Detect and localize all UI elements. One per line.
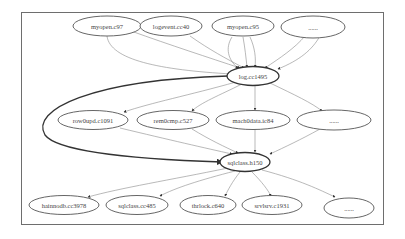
edge-n3b-center1 — [243, 37, 247, 67]
edges-bottom — [88, 168, 335, 197]
edge-n3c-center1 — [250, 37, 255, 67]
node-label: sqlclass.cc485 — [118, 202, 155, 209]
node-label: row0upd.c1091 — [73, 117, 114, 124]
node-label: thrlock.c640 — [192, 202, 225, 209]
node-row0upd-c1091[interactable]: row0upd.c1091 — [58, 111, 128, 130]
edge-center1-m4 — [270, 83, 322, 111]
node-log-cc1495[interactable]: log.cc1495 — [227, 67, 279, 86]
edges-top — [107, 31, 320, 74]
node-ellipsis-middle[interactable]: ...... — [297, 110, 371, 130]
edge-center2-b2 — [160, 171, 235, 196]
node-ellipsis-bottom[interactable]: ...... — [324, 198, 374, 218]
edge-n2-center1 — [190, 36, 244, 68]
edge-center2-b3 — [225, 172, 240, 196]
call-graph: myopen.c97 logevent.cc40 myopen.c95 ....… — [0, 0, 405, 239]
node-label: logevent.cc40 — [153, 23, 189, 30]
edge-n4a-center1 — [265, 36, 305, 68]
edge-center1-m2 — [192, 84, 242, 111]
edges-middle — [124, 82, 322, 112]
node-thrlock-c640[interactable]: thrlock.c640 — [180, 196, 236, 215]
node-label: myopen.c97 — [91, 23, 124, 30]
edge-m1-center2 — [120, 128, 232, 154]
edge-center2-b4 — [252, 172, 271, 196]
edge-n1b-center1 — [131, 31, 240, 68]
node-rem0cmp-c527[interactable]: rem0cmp.c527 — [137, 111, 209, 130]
edge-n3a-center1 — [228, 37, 238, 68]
node-myopen-c97[interactable]: myopen.c97 — [73, 16, 141, 36]
edge-center1-m1 — [124, 82, 236, 112]
edges-lower — [120, 128, 320, 154]
node-label: srvlsrv.c1931 — [255, 202, 290, 209]
node-label: sqlclass.h150 — [228, 159, 263, 166]
node-logevent-cc40[interactable]: logevent.cc40 — [140, 16, 202, 36]
edge-center2-b5 — [262, 170, 335, 197]
node-hainnodb-cc3978[interactable]: hainnodb.cc3978 — [29, 196, 99, 215]
node-label: hainnodb.cc3978 — [42, 202, 87, 209]
node-myopen-c95[interactable]: myopen.c95 — [212, 16, 274, 36]
node-label: rem0cmp.c527 — [154, 117, 194, 124]
edge-n1-center1 — [107, 36, 232, 74]
node-sqlclass-cc485[interactable]: sqlclass.cc485 — [106, 196, 168, 215]
node-label: ...... — [329, 117, 339, 124]
node-label: mach0data.ic84 — [233, 117, 275, 124]
edge-center2-b1 — [88, 168, 228, 197]
edge-m2-center2 — [192, 129, 238, 153]
node-ellipsis-top[interactable]: ...... — [281, 16, 345, 38]
node-srvlsrv-c1931[interactable]: srvlsrv.c1931 — [242, 196, 302, 215]
edge-m4-center2 — [270, 129, 320, 154]
edge-n4b-center1 — [278, 36, 320, 69]
node-label: ...... — [344, 205, 354, 212]
node-sqlclass-h150[interactable]: sqlclass.h150 — [220, 153, 270, 172]
node-label: myopen.c95 — [227, 23, 259, 30]
node-label: log.cc1495 — [239, 73, 268, 80]
node-mach0data-ic84[interactable]: mach0data.ic84 — [216, 111, 290, 130]
node-label: ...... — [308, 24, 318, 31]
